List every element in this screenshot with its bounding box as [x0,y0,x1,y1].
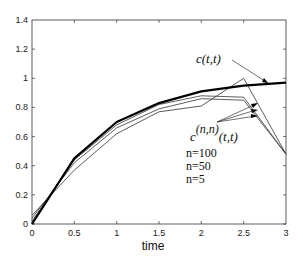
y-tick-labels: 0 0.2 0.4 0.6 0.8 1 1.2 1.4 [15,15,28,229]
annotation-c-arrow [232,60,268,83]
x-tick-0.5: 0.5 [68,228,81,238]
annotation-cn-args: (t,t) [219,129,238,144]
y-tick-0: 0 [23,219,28,229]
approx-series [32,78,286,221]
legend: n=100 n=50 n=5 [186,146,217,186]
y-ticks [32,49,286,224]
plot-frame [32,20,286,224]
y-tick-1.2: 1.2 [15,44,28,54]
y-tick-0.6: 0.6 [15,132,28,142]
annotation-cn-superscript: (n,n) [196,122,219,136]
series-n50 [32,99,286,219]
x-axis-label: time [142,239,165,253]
y-tick-0.8: 0.8 [15,102,28,112]
legend-n100: n=100 [186,146,217,160]
annotation-cn-arrowheads [251,103,258,118]
y-tick-1.4: 1.4 [15,15,28,25]
legend-n50: n=50 [186,159,211,173]
x-tick-0: 0 [29,228,34,238]
y-tick-0.2: 0.2 [15,190,28,200]
annotation-cn-label: c(n,n)(t,t) [190,122,238,144]
chart: 0 0.2 0.4 0.6 0.8 1 1.2 1.4 0 0.5 1 1.5 … [0,0,303,260]
series-c-exact [32,83,286,224]
x-tick-2.5: 2.5 [237,228,250,238]
annotation-c-label: c(t,t) [196,51,221,66]
x-tick-2: 2 [199,228,204,238]
x-tick-1: 1 [114,228,119,238]
legend-n5: n=5 [186,172,205,186]
x-tick-3: 3 [283,228,288,238]
y-tick-1: 1 [23,73,28,83]
x-tick-1.5: 1.5 [153,228,166,238]
annotation-cn-arrows [217,104,256,122]
series-n5 [32,78,286,215]
x-tick-labels: 0 0.5 1 1.5 2 2.5 3 [29,228,288,238]
y-tick-0.4: 0.4 [15,161,28,171]
series-n100 [32,96,286,221]
